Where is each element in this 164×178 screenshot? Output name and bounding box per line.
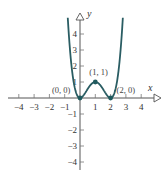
- y-tick-label: −1: [67, 109, 77, 119]
- y-axis-arrow-icon: [76, 13, 84, 20]
- y-tick-label: 2: [73, 61, 78, 71]
- point-marker: [78, 96, 83, 101]
- x-tick-label: 2: [108, 102, 113, 112]
- x-axis-label: x: [147, 82, 153, 93]
- point-marker: [108, 96, 113, 101]
- x-tick-label: 4: [139, 102, 144, 112]
- y-tick-label: −3: [67, 141, 77, 151]
- point-label: (0, 0): [52, 85, 71, 95]
- y-axis-label: y: [86, 8, 92, 19]
- x-tick-label: 3: [124, 102, 129, 112]
- point-label: (1, 1): [89, 67, 108, 77]
- x-tick-label: −4: [14, 102, 24, 112]
- point-label: (2, 0): [117, 85, 136, 95]
- x-axis-arrow-icon: [154, 94, 161, 102]
- function-graph: xy −4−3−2−112344321−1−2−3−4 (0, 0)(1, 1)…: [0, 0, 164, 178]
- y-tick-label: 3: [73, 45, 78, 55]
- y-tick-label: 4: [73, 29, 78, 39]
- point-marker: [93, 80, 98, 85]
- axes: xy: [8, 8, 161, 170]
- y-tick-label: −2: [67, 125, 77, 135]
- x-tick-label: 1: [93, 102, 98, 112]
- x-tick-label: −2: [45, 102, 55, 112]
- y-tick-label: −4: [67, 157, 77, 167]
- x-tick-label: −3: [29, 102, 39, 112]
